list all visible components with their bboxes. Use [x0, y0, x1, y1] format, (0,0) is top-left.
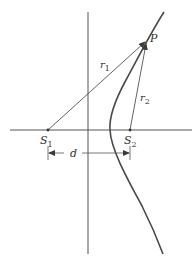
- r1-label: r1: [100, 59, 110, 73]
- source-s1-point: [47, 129, 50, 132]
- s1-label: S1: [40, 134, 53, 149]
- source-s2-point: [129, 129, 132, 132]
- distance-d-label: d: [70, 147, 77, 160]
- r1-vector: [48, 42, 145, 130]
- hyperbola-curve: [110, 12, 164, 254]
- r2-label: r2: [140, 92, 150, 106]
- hyperbola-diagram: P r1 r2 S1 S2 d: [0, 0, 196, 258]
- s2-label: S2: [124, 134, 137, 149]
- point-p-label: P: [149, 32, 158, 45]
